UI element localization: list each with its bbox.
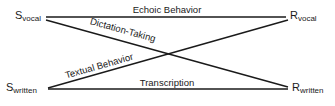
verbal-operant-diagram: Svocal Rvocal Swritten Rwritten Echoic B… — [0, 0, 335, 106]
label-textual-behavior: Textual Behavior — [64, 51, 135, 81]
node-s-vocal: Svocal — [15, 9, 41, 23]
node-s-written: Swritten — [6, 81, 37, 95]
label-transcription: Transcription — [140, 77, 195, 88]
label-dictation-taking: Dictation-Taking — [89, 15, 157, 44]
node-r-vocal: Rvocal — [290, 9, 317, 23]
node-r-written: Rwritten — [292, 81, 324, 95]
label-echoic-behavior: Echoic Behavior — [133, 4, 202, 15]
